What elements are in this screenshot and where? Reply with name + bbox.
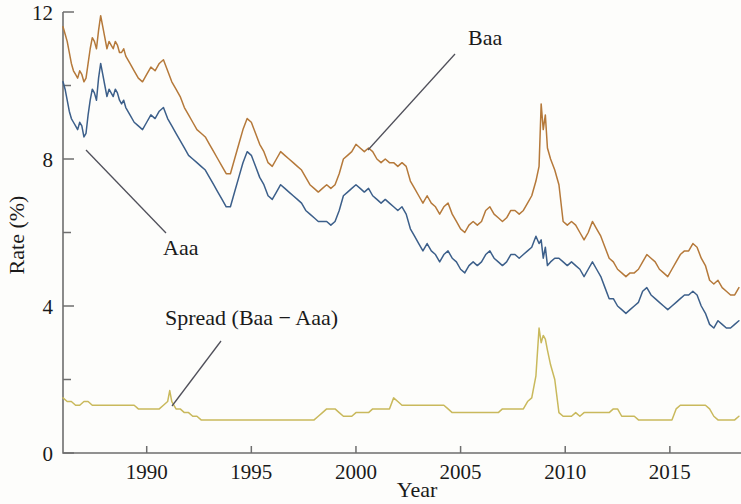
y-axis-title: Rate (%) — [4, 196, 29, 275]
series-annotation-aaa: Aaa — [163, 235, 199, 260]
leader-line-aaa — [86, 150, 166, 233]
axis-and-series-labels: 19901995200020052010201504812BaaAaaSprea… — [4, 1, 691, 502]
series-annotation-spread: Spread (Baa − Aaa) — [165, 305, 338, 330]
annotation-leaders-group — [86, 54, 455, 406]
y-tick-label-12: 12 — [32, 1, 53, 25]
leader-line-baa — [368, 54, 455, 150]
x-tick-label-1990: 1990 — [126, 460, 168, 484]
leader-line-spread — [172, 341, 221, 406]
x-tick-label-1995: 1995 — [230, 460, 272, 484]
data-series-group — [63, 16, 739, 420]
x-tick-label-2010: 2010 — [544, 460, 586, 484]
y-tick-label-4: 4 — [43, 295, 54, 319]
x-tick-label-2000: 2000 — [335, 460, 377, 484]
x-tick-label-2005: 2005 — [440, 460, 482, 484]
x-tick-label-2015: 2015 — [649, 460, 691, 484]
chart-page: 19901995200020052010201504812BaaAaaSprea… — [0, 0, 741, 504]
y-tick-label-0: 0 — [43, 442, 54, 466]
series-annotation-baa: Baa — [468, 25, 502, 50]
axis-ticks-group — [63, 12, 670, 453]
series-line-spread — [63, 328, 739, 420]
bond-rate-line-chart: 19901995200020052010201504812BaaAaaSprea… — [0, 0, 741, 504]
x-axis-title: Year — [397, 477, 438, 502]
y-tick-label-8: 8 — [43, 148, 54, 172]
series-line-aaa — [63, 63, 739, 328]
